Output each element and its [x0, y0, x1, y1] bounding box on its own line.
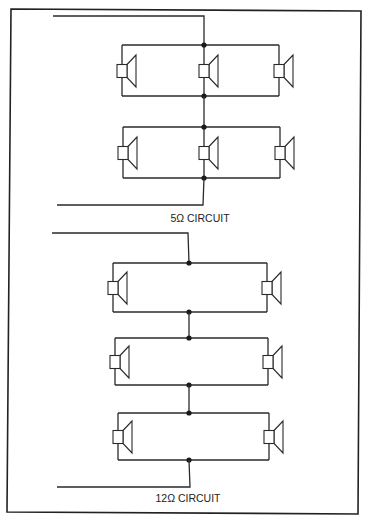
junction-dot [186, 335, 191, 340]
circuit-12-ohm: 12Ω CIRCUIT [52, 233, 283, 504]
output-lead [57, 460, 190, 487]
speaker-icon [110, 346, 129, 378]
input-lead [53, 16, 204, 45]
parallel-speaker-group [110, 335, 282, 387]
speaker-icon [264, 421, 283, 453]
speaker-icon [199, 137, 218, 169]
speaker-icon [199, 55, 218, 87]
speaker-icon [274, 55, 293, 87]
speaker-icon [117, 55, 136, 87]
circuit-5-ohm: 5Ω CIRCUIT [53, 16, 294, 224]
junction-dot [186, 260, 191, 265]
circuit-label: 12Ω CIRCUIT [155, 492, 221, 504]
speaker-icon [275, 137, 294, 169]
output-lead [57, 178, 204, 205]
speaker-wiring-diagram: 5Ω CIRCUIT12Ω CIRCUIT [0, 0, 368, 523]
junction-dot [201, 124, 206, 129]
junction-dot [201, 42, 206, 47]
speaker-icon [262, 272, 281, 304]
parallel-speaker-group [113, 410, 283, 462]
figure-frame [7, 9, 361, 514]
parallel-speaker-group [118, 124, 294, 180]
parallel-speaker-group [117, 42, 293, 98]
junction-dot [186, 410, 191, 415]
parallel-speaker-group [108, 260, 281, 314]
circuits-layer: 5Ω CIRCUIT12Ω CIRCUIT [52, 16, 294, 504]
speaker-icon [263, 346, 282, 378]
circuit-label: 5Ω CIRCUIT [170, 212, 230, 224]
speaker-icon [118, 137, 137, 169]
speaker-icon [108, 272, 127, 304]
speaker-icon [113, 421, 132, 453]
input-lead [52, 233, 189, 263]
